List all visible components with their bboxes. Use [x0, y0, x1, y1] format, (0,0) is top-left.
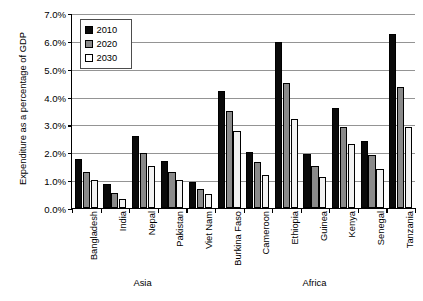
x-axis-label: Kenya: [347, 211, 357, 237]
x-axis-label: Viet Nam: [204, 211, 214, 249]
x-label-slot: Senegal: [358, 211, 387, 273]
x-label-slot: Viet Nam: [186, 211, 215, 273]
x-label-slot: Bangladesh: [71, 211, 100, 273]
y-tick-label: 6.0%: [22, 36, 66, 47]
x-label-slot: India: [100, 211, 129, 273]
legend-swatch-icon-2010: [85, 26, 93, 34]
x-label-slot: Ethiopia: [272, 211, 301, 273]
x-tick-mark: [415, 208, 416, 213]
x-axis-label: Tanzania: [405, 211, 415, 248]
x-label-slot: Guinea: [300, 211, 329, 273]
y-tick-label: 7.0%: [22, 9, 66, 20]
x-axis-label: Nepal: [147, 211, 157, 235]
x-axis-label: India: [118, 211, 128, 231]
legend-swatch-icon-2020: [85, 40, 93, 48]
x-axis-label: Guinea: [319, 211, 329, 241]
x-label-slot: Pakistan: [157, 211, 186, 273]
x-label-slot: Kenya: [329, 211, 358, 273]
y-tick-label: 4.0%: [22, 92, 66, 103]
x-label-slot: Tanzania: [386, 211, 415, 273]
region-label-africa: Africa: [214, 277, 415, 288]
bar-chart: Expenditure as a percentage of GDP 0.0%1…: [0, 0, 423, 301]
y-tick-label: 2.0%: [22, 148, 66, 159]
y-tick-label: 5.0%: [22, 64, 66, 75]
x-axis-label: Ethiopia: [290, 211, 300, 245]
legend-label-2010: 2010: [97, 25, 118, 35]
x-label-slot: Burkina Faso: [214, 211, 243, 273]
x-axis-label: Pakistan: [175, 211, 185, 247]
chart-legend: 2010 2020 2030: [80, 19, 132, 69]
legend-item-2030: 2030: [85, 51, 127, 65]
legend-item-2020: 2020: [85, 37, 127, 51]
x-axis-label: Bangladesh: [89, 211, 99, 260]
legend-label-2020: 2020: [97, 39, 118, 49]
legend-item-2010: 2010: [85, 23, 127, 37]
x-label-slot: Nepal: [128, 211, 157, 273]
y-tick-label: 0.0%: [22, 204, 66, 215]
y-tick-label: 3.0%: [22, 120, 66, 131]
y-tick-label: 1.0%: [22, 176, 66, 187]
region-label-asia: Asia: [71, 277, 214, 288]
x-axis-label: Cameroon: [261, 211, 271, 254]
x-label-slot: Cameroon: [243, 211, 272, 273]
x-axis-labels: BangladeshIndiaNepalPakistanViet NamBurk…: [71, 211, 415, 273]
x-axis-label: Burkina Faso: [233, 211, 243, 266]
legend-swatch-icon-2030: [85, 54, 93, 62]
legend-label-2030: 2030: [97, 53, 118, 63]
x-axis-label: Senegal: [376, 211, 386, 245]
